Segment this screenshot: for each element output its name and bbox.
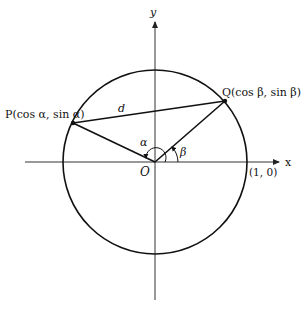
unit-point-label: (1, 0) bbox=[249, 166, 277, 178]
x-axis-label: x bbox=[285, 156, 292, 169]
unit-circle-diagram: y x O (1, 0) P(cos α, sin α) Q(cos β, si… bbox=[0, 0, 304, 315]
point-q bbox=[223, 99, 227, 103]
beta-arc bbox=[172, 147, 178, 162]
y-axis-label: y bbox=[149, 6, 157, 19]
origin-label: O bbox=[140, 165, 150, 179]
point-q-label: Q(cos β, sin β) bbox=[222, 86, 301, 99]
point-p bbox=[71, 121, 75, 125]
chord-pq bbox=[73, 101, 225, 123]
alpha-label: α bbox=[140, 136, 148, 149]
point-p-label: P(cos α, sin α) bbox=[5, 108, 85, 121]
chord-d-label: d bbox=[118, 102, 125, 115]
beta-label: β bbox=[179, 146, 186, 159]
